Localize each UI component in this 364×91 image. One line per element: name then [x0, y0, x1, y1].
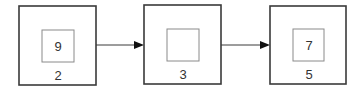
node-value-box — [167, 29, 199, 61]
edge-node1-node2 — [96, 41, 144, 49]
edge-node2-node3 — [221, 41, 270, 49]
node-label: 2 — [54, 68, 61, 83]
arrowhead-icon — [134, 41, 144, 49]
node-label: 3 — [179, 67, 186, 82]
node-3: 7 5 — [270, 6, 346, 84]
node-value: 9 — [54, 39, 61, 54]
arrowhead-icon — [260, 41, 270, 49]
node-label: 5 — [305, 67, 312, 82]
node-1: 9 2 — [19, 6, 96, 85]
node-value: 7 — [305, 38, 312, 53]
linked-list-diagram: 9 2 3 7 5 — [0, 0, 364, 91]
node-2: 3 — [144, 5, 221, 84]
